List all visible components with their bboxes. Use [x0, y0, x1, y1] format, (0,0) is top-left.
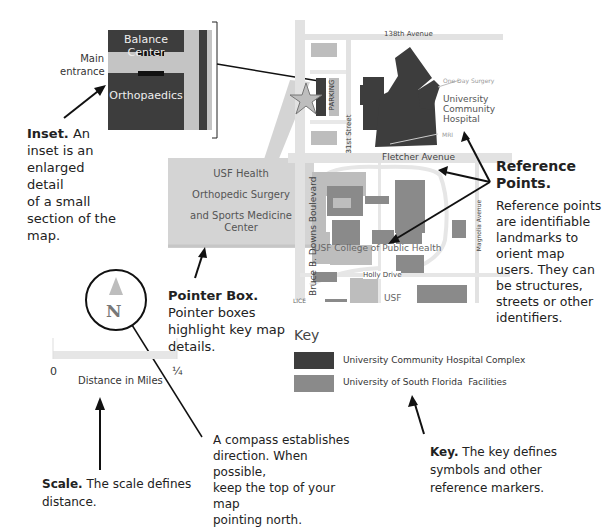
- compass-description: A compass establishes direction. When po…: [213, 432, 353, 528]
- street-magnolia-avenue: Magnolia Avenue: [475, 200, 482, 251]
- ref-line-1: are identifiable: [496, 214, 609, 230]
- inset-label-main-entrance: Main entrance: [60, 52, 104, 78]
- pointer-desc-1: highlight key map: [168, 322, 285, 337]
- pointer-box-line2: and Sports Medicine: [168, 210, 314, 222]
- key-item-usf: University of South Florida Facilities: [343, 377, 507, 387]
- inset-title: Inset.: [27, 126, 69, 141]
- street-fletcher-avenue: Fletcher Avenue: [382, 152, 455, 162]
- label-cut: LICE: [293, 297, 306, 304]
- ref-line-5: be structures,: [496, 278, 609, 294]
- inset-desc-0: An: [73, 126, 90, 141]
- inset-label-balance-center: Balance Center: [108, 33, 184, 59]
- compass-line-3: pointing north.: [213, 512, 353, 528]
- ref-line-4: users. They can: [496, 262, 609, 278]
- hospital-line3: Hospital: [443, 114, 495, 124]
- ref-line-6: streets or other: [496, 294, 609, 310]
- inset-desc-1: inset is an: [27, 143, 94, 158]
- pointer-box-title: Pointer Box.: [168, 288, 258, 303]
- scale-label: Distance in Miles: [78, 375, 163, 386]
- reference-points-title: Reference Points.: [496, 158, 609, 192]
- ref-line-3: orient map: [496, 246, 609, 262]
- main-entrance-line1: Main: [60, 52, 104, 65]
- compass-line-0: A compass establishes: [213, 432, 353, 448]
- key-item-hospital: University Community Hospital Complex: [343, 355, 525, 365]
- inset-desc-2: enlarged detail: [27, 160, 84, 192]
- scale-line-1: distance.: [42, 495, 97, 509]
- compass-letter: N: [106, 301, 122, 321]
- inset-label-orthopaedics: Orthopaedics: [108, 89, 184, 102]
- label-university-community-hospital: University Community Hospital: [443, 94, 495, 124]
- ref-line-2: landmarks to: [496, 230, 609, 246]
- scale-title: Scale.: [42, 477, 83, 491]
- compass-line-2: keep the top of your map: [213, 480, 353, 512]
- pointer-box-line3: Center: [168, 222, 314, 234]
- pointer-box: USF Health Orthopedic Surgery and Sports…: [168, 168, 314, 234]
- hospital-line2: Community: [443, 104, 495, 114]
- street-138th-avenue: 138th Avenue: [384, 30, 433, 38]
- compass-line-1: direction. When possible,: [213, 448, 353, 480]
- inset-desc-5: map.: [27, 228, 60, 243]
- key-line-1: symbols and other: [430, 463, 542, 477]
- street-31st: 31st Street: [345, 115, 353, 154]
- ref-title-2: Points.: [496, 175, 609, 192]
- key-title: Key: [294, 327, 319, 343]
- label-parking: PARKING: [328, 80, 336, 111]
- label-usf-college-public-health: USF College of Public Health: [314, 243, 441, 253]
- key-description: Key. The key defines symbols and other r…: [430, 443, 560, 497]
- scale-end: ¼: [172, 365, 183, 378]
- main-entrance-line2: entrance: [60, 65, 104, 78]
- pointer-box-description: Pointer Box. Pointer boxes highlight key…: [168, 287, 288, 355]
- pointer-desc-0: Pointer boxes: [168, 305, 256, 320]
- inset-description: Inset. An inset is an enlarged detail of…: [27, 125, 117, 244]
- scale-line-0: The scale defines: [87, 477, 192, 491]
- pointer-box-line0: USF Health: [168, 168, 314, 180]
- street-bruce-b-downs: Bruce B. Downs Boulevard: [308, 166, 318, 296]
- label-mri: MRI: [442, 131, 453, 138]
- ref-line-0: Reference points: [496, 198, 609, 214]
- ref-line-7: identifiers.: [496, 310, 609, 326]
- ref-title-1: Reference: [496, 158, 609, 175]
- key-line-2: reference markers.: [430, 481, 544, 495]
- inset-desc-4: section of the: [27, 211, 116, 226]
- scale-start: 0: [50, 365, 57, 378]
- pointer-desc-2: details.: [168, 339, 215, 354]
- scale-description: Scale. The scale defines distance.: [42, 475, 212, 511]
- key-line-0: The key defines: [462, 445, 557, 459]
- label-one-day-surgery: One Day Surgery: [443, 77, 494, 84]
- pointer-box-line1: Orthopedic Surgery: [168, 189, 314, 201]
- hospital-line1: University: [443, 94, 495, 104]
- label-usf: USF: [384, 293, 401, 303]
- inset-desc-3: of a small: [27, 194, 90, 209]
- key-desc-title: Key.: [430, 445, 459, 459]
- street-holly-drive: Holly Drive: [363, 271, 401, 279]
- reference-points-description: Reference Points. Reference points are i…: [496, 158, 609, 326]
